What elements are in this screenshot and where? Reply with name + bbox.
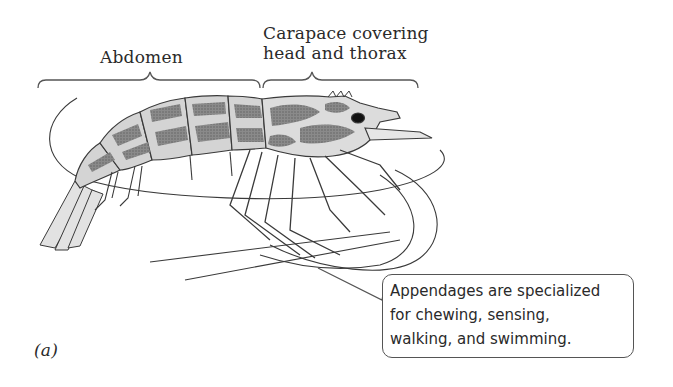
carapace-bracket: [263, 72, 418, 88]
shrimp-anatomy-figure: Abdomen Carapace covering head and thora…: [0, 0, 673, 387]
abdomen-segments: [75, 96, 266, 188]
carapace: [262, 91, 432, 157]
carapace-label-line2: head and thorax: [263, 43, 429, 63]
appendages-callout: Appendages are specialized for chewing, …: [382, 274, 634, 358]
carapace-label: Carapace covering head and thorax: [263, 23, 429, 63]
callout-line: for chewing, sensing,: [390, 303, 633, 327]
callout-pointer: [318, 268, 384, 300]
callout-line: walking, and swimming.: [390, 327, 633, 351]
panel-label: (a): [34, 340, 58, 360]
abdomen-bracket: [38, 72, 260, 88]
carapace-label-line1: Carapace covering: [263, 23, 429, 43]
walking-legs: [230, 150, 400, 258]
callout-line: Appendages are specialized: [390, 279, 633, 303]
tail-fan: [40, 181, 103, 250]
eye: [352, 113, 365, 123]
abdomen-label: Abdomen: [100, 47, 183, 67]
